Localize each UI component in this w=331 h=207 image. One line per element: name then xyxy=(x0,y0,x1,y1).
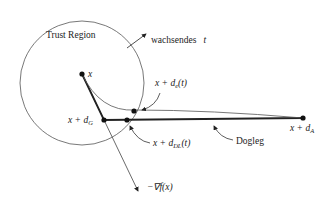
dogleg-pointer xyxy=(214,126,233,140)
trust-region-label: Trust Region xyxy=(46,30,96,40)
growth-arrow xyxy=(127,34,146,48)
de-pointer xyxy=(142,93,160,110)
label-de: x + de(t) xyxy=(154,78,187,89)
point-dDL xyxy=(124,117,129,122)
exact-path-curve xyxy=(82,74,303,118)
growth-label: wachsendes t xyxy=(151,29,206,46)
dDL-pointer xyxy=(130,126,150,143)
gradient-label: −∇f(x) xyxy=(147,182,173,193)
label-x: x xyxy=(87,69,93,79)
dogleg-label: Dogleg xyxy=(236,136,264,146)
label-dA: x + dA xyxy=(289,123,314,134)
point-dA xyxy=(300,115,305,120)
point-dG xyxy=(101,117,106,122)
point-x xyxy=(79,71,84,76)
dogleg-diagram: Trust Region wachsendes t x x + de(t) x … xyxy=(0,0,331,207)
point-de xyxy=(131,108,136,113)
label-dDL: x + dDL(t) xyxy=(152,138,190,149)
dogleg-path xyxy=(82,74,303,120)
label-dG: x + dG xyxy=(67,115,93,126)
